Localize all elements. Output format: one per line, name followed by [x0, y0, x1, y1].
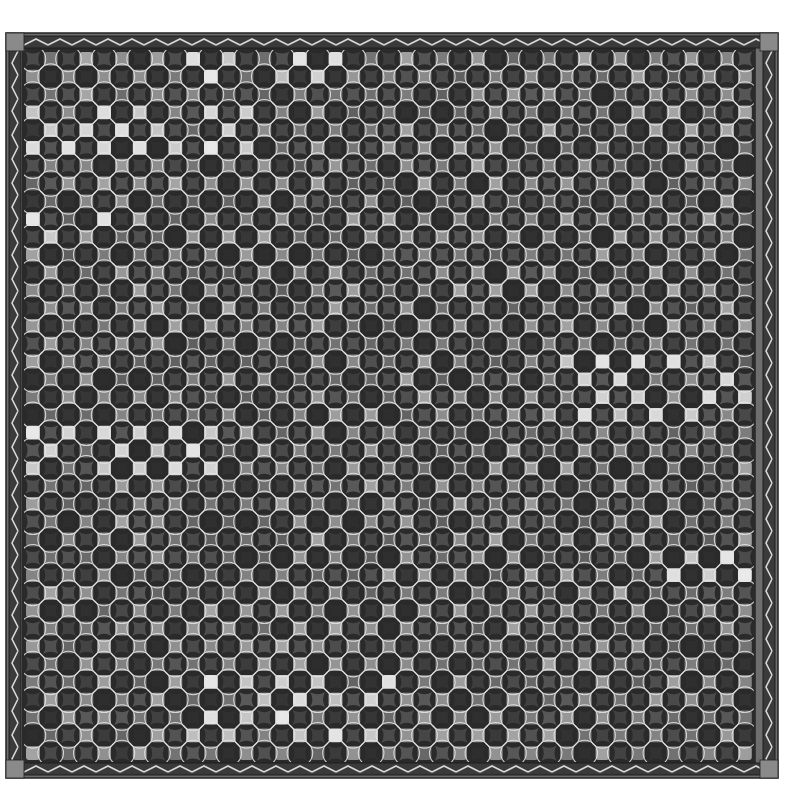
- mosaic-artwork: [0, 0, 807, 804]
